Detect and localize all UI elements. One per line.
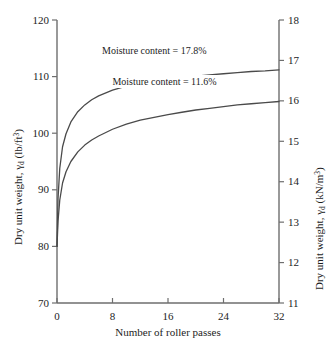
series-label-moisture-11-6: Moisture content = 11.6%	[110, 75, 218, 88]
y-axis-left-tick-label: 90	[25, 184, 49, 195]
x-axis-tick-label: 32	[267, 311, 291, 322]
y-axis-right-tick-label: 16	[288, 95, 308, 106]
y-axis-left-tick-label: 120	[25, 15, 49, 26]
y-axis-right-tick-label: 12	[288, 257, 308, 268]
x-axis-tick-label: 16	[156, 311, 180, 322]
y-axis-right-tick-label: 14	[288, 176, 308, 187]
x-axis-title: Number of roller passes	[106, 326, 230, 338]
curve-moisture-17-8	[57, 70, 279, 247]
y-axis-right-tick-label: 18	[288, 15, 308, 26]
y-axis-right-title: Dry unit weight, γd (kN/m3)	[313, 167, 327, 290]
y-axis-left-tick-label: 100	[25, 128, 49, 139]
y-axis-left-tick-label: 110	[25, 71, 49, 82]
chart-axes	[52, 20, 284, 303]
y-axis-right-tick-label: 13	[288, 217, 308, 228]
y-axis-left-title: Dry unit weight, γd (lb/ft3)	[12, 129, 26, 245]
curve-moisture-11-6	[57, 102, 279, 247]
x-axis-tick-label: 8	[101, 311, 125, 322]
chart-curves	[57, 70, 279, 247]
x-axis-tick-label: 24	[212, 311, 236, 322]
y-axis-right-tick-label: 17	[288, 55, 308, 66]
y-axis-right-tick-label: 15	[288, 136, 308, 147]
y-axis-left-tick-label: 80	[25, 241, 49, 252]
y-axis-right-tick-label: 11	[288, 298, 308, 309]
x-axis-tick-label: 0	[45, 311, 69, 322]
y-axis-left-tick-label: 70	[25, 298, 49, 309]
series-label-moisture-17-8: Moisture content = 17.8%	[100, 44, 209, 57]
